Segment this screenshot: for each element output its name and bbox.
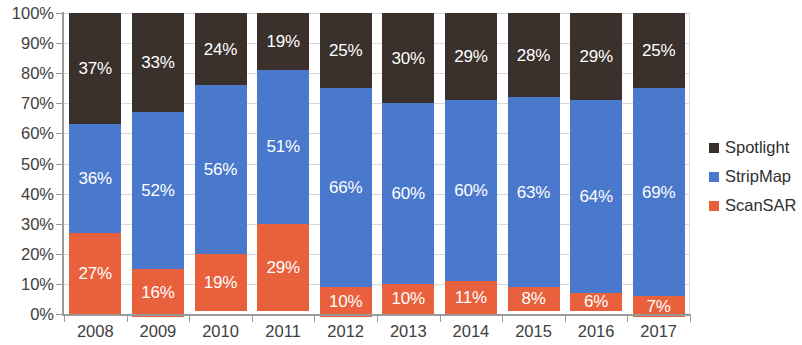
bar-segment-value-label: 6%: [584, 293, 608, 310]
bar-segment-value-label: 27%: [79, 265, 112, 282]
x-axis-tick-label: 2012: [327, 323, 364, 340]
y-axis-tick-label: 10%: [21, 276, 54, 293]
bar-column[interactable]: 28%63%8%: [508, 13, 560, 314]
legend-item-stripmap[interactable]: StripMap: [709, 162, 801, 191]
bar-stack: 33%52%16%: [132, 13, 184, 314]
bar-column[interactable]: 29%60%11%: [445, 13, 497, 314]
y-axis-tick-mark: [56, 164, 63, 165]
bar-stack: 29%60%11%: [445, 13, 497, 314]
y-axis-tick-label: 70%: [21, 95, 54, 112]
bar-column[interactable]: 30%60%10%: [382, 13, 434, 314]
y-axis-tick-label: 30%: [21, 215, 54, 232]
bar-segment-spotlight[interactable]: 24%: [195, 13, 247, 85]
x-axis-tick-label: 2015: [515, 323, 552, 340]
x-axis-tick-label: 2013: [390, 323, 427, 340]
bar-segment-value-label: 63%: [517, 184, 550, 201]
bar-segment-stripmap[interactable]: 66%: [320, 88, 372, 287]
bar-column[interactable]: 25%69%7%: [633, 13, 685, 314]
bar-segment-scansar[interactable]: 27%: [69, 233, 121, 314]
bar-segment-scansar[interactable]: 29%: [257, 224, 309, 311]
y-axis-tick-mark: [56, 73, 63, 74]
bar-segment-scansar[interactable]: 10%: [382, 284, 434, 314]
legend-label: Spotlight: [725, 139, 789, 156]
x-axis-tick-mark: [502, 316, 503, 322]
bar-segment-spotlight[interactable]: 33%: [132, 13, 184, 112]
bar-segment-stripmap[interactable]: 60%: [445, 100, 497, 281]
y-axis-tick-mark: [56, 254, 63, 255]
bar-segment-scansar[interactable]: 19%: [195, 254, 247, 311]
bar-segment-stripmap[interactable]: 36%: [69, 124, 121, 232]
bar-segment-spotlight[interactable]: 28%: [508, 13, 560, 97]
bar-segment-value-label: 28%: [517, 47, 550, 64]
bar-segment-spotlight[interactable]: 25%: [633, 13, 685, 88]
y-axis-tick-mark: [56, 43, 63, 44]
bar-stack: 24%56%19%: [195, 13, 247, 314]
bar-segment-spotlight[interactable]: 29%: [570, 13, 622, 100]
x-axis-tick-mark: [127, 316, 128, 322]
x-axis-tick-label: 2014: [453, 323, 490, 340]
x-axis-tick-label: 2008: [77, 323, 114, 340]
bar-segment-stripmap[interactable]: 60%: [382, 103, 434, 284]
x-axis-tick-mark: [690, 316, 691, 322]
y-axis-tick-label: 40%: [21, 185, 54, 202]
bar-segment-value-label: 10%: [329, 293, 362, 310]
y-axis-tick-label: 100%: [12, 5, 54, 22]
bar-segment-scansar[interactable]: 11%: [445, 281, 497, 314]
bar-segment-value-label: 30%: [392, 50, 425, 67]
bar-column[interactable]: 19%51%29%: [257, 13, 309, 314]
y-axis-tick-mark: [56, 224, 63, 225]
bar-column[interactable]: 37%36%27%: [69, 13, 121, 314]
bar-segment-value-label: 11%: [455, 289, 487, 306]
bar-segment-spotlight[interactable]: 37%: [69, 13, 121, 124]
bar-segment-scansar[interactable]: 6%: [570, 293, 622, 311]
legend-label: StripMap: [725, 168, 791, 185]
bar-segment-value-label: 56%: [204, 161, 237, 178]
bar-segment-stripmap[interactable]: 52%: [132, 112, 184, 269]
y-axis-tick-label: 80%: [21, 65, 54, 82]
x-axis-tick-mark: [64, 316, 65, 322]
y-axis-tick-mark: [56, 314, 63, 315]
bar-segment-scansar[interactable]: 8%: [508, 287, 560, 311]
y-axis-tick-mark: [56, 13, 63, 14]
legend-swatch-icon: [709, 172, 719, 182]
bar-segment-scansar[interactable]: 16%: [132, 269, 184, 317]
bar-segment-spotlight[interactable]: 19%: [257, 13, 309, 70]
bar-segment-value-label: 29%: [266, 259, 299, 276]
bar-segment-stripmap[interactable]: 56%: [195, 85, 247, 254]
bar-stack: 37%36%27%: [69, 13, 121, 314]
bar-column[interactable]: 24%56%19%: [195, 13, 247, 314]
stacked-bar-chart: 0%10%20%30%40%50%60%70%80%90%100% 37%36%…: [0, 0, 802, 345]
bar-column[interactable]: 33%52%16%: [132, 13, 184, 314]
bar-segment-stripmap[interactable]: 64%: [570, 100, 622, 293]
y-axis-tick-label: 20%: [21, 246, 54, 263]
bar-segment-spotlight[interactable]: 29%: [445, 13, 497, 100]
y-axis-tick-mark: [56, 284, 63, 285]
y-axis: 0%10%20%30%40%50%60%70%80%90%100%: [0, 0, 57, 345]
bar-segment-scansar[interactable]: 10%: [320, 287, 372, 317]
y-axis-tick-label: 60%: [21, 125, 54, 142]
bar-segment-value-label: 52%: [141, 182, 174, 199]
bar-segment-value-label: 66%: [329, 179, 362, 196]
bar-segment-value-label: 25%: [329, 42, 362, 59]
bar-column[interactable]: 25%66%10%: [320, 13, 372, 314]
bar-column[interactable]: 29%64%6%: [570, 13, 622, 314]
bar-segment-stripmap[interactable]: 51%: [257, 70, 309, 224]
chart-legend: SpotlightStripMapScanSAR: [709, 133, 801, 220]
legend-swatch-icon: [709, 143, 719, 153]
x-axis-tick-label: 2016: [578, 323, 615, 340]
bar-segment-spotlight[interactable]: 30%: [382, 13, 434, 103]
x-axis-tick-label: 2009: [140, 323, 177, 340]
x-axis-tick-mark: [627, 316, 628, 322]
plot-right-border: [689, 13, 690, 314]
plot-area: 37%36%27%33%52%16%24%56%19%19%51%29%25%6…: [64, 13, 690, 314]
legend-swatch-icon: [709, 201, 719, 211]
bar-segment-spotlight[interactable]: 25%: [320, 13, 372, 88]
legend-item-spotlight[interactable]: Spotlight: [709, 133, 801, 162]
legend-item-scansar[interactable]: ScanSAR: [709, 191, 801, 220]
bar-segment-stripmap[interactable]: 69%: [633, 88, 685, 296]
y-axis-tick-mark: [56, 194, 63, 195]
x-axis-tick-label: 2017: [640, 323, 677, 340]
x-axis-tick-label: 2011: [265, 323, 300, 340]
bar-segment-stripmap[interactable]: 63%: [508, 97, 560, 287]
bar-segment-value-label: 24%: [204, 41, 237, 58]
